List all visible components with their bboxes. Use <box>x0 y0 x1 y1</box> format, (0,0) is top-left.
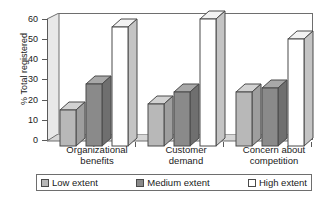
y-tick-30 <box>42 79 47 80</box>
legend-label-high-extent: High extent <box>259 178 307 188</box>
x-axis-label-line1: Concern about <box>225 145 323 156</box>
x-axis-label-concern-about-competition: Concern about competition <box>225 145 323 166</box>
y-tick-label-50: 50 <box>0 35 38 44</box>
x-axis-label-line2: competition <box>225 156 323 167</box>
x-axis-label-customer-demand: Customer demand <box>137 145 235 166</box>
x-axis-label-line1: Organizational <box>48 145 146 156</box>
plot-left-wall <box>47 13 59 140</box>
y-tick-40 <box>42 59 47 60</box>
y-axis-line <box>47 19 48 140</box>
bar-medium-extent-organizational-benefits <box>86 76 114 147</box>
x-axis-label-organizational-benefits: Organizational benefits <box>48 145 146 166</box>
legend-label-low-extent: Low extent <box>52 178 98 188</box>
y-tick-label-0: 0 <box>0 136 38 145</box>
x-axis-label-line2: benefits <box>48 156 146 167</box>
legend-item-medium-extent: Medium extent <box>136 178 209 188</box>
y-tick-label-20: 20 <box>0 96 38 105</box>
x-axis-label-line2: demand <box>137 156 235 167</box>
bar-chart: % Total registered 60 50 40 30 20 10 0 <box>0 0 330 203</box>
bar-low-extent-concern-about-competition <box>236 84 264 147</box>
legend-label-medium-extent: Medium extent <box>147 178 209 188</box>
bar-low-extent-customer-demand <box>148 96 176 147</box>
bar-high-extent-concern-about-competition <box>288 31 316 147</box>
legend-item-high-extent: High extent <box>248 178 307 188</box>
bar-high-extent-customer-demand <box>200 11 228 147</box>
bar-high-extent-organizational-benefits <box>112 19 140 147</box>
y-tick-50 <box>42 39 47 40</box>
legend-item-low-extent: Low extent <box>41 178 98 188</box>
legend-swatch-medium-extent-icon <box>136 179 144 187</box>
y-tick-10 <box>42 120 47 121</box>
x-axis-label-line1: Customer <box>137 145 235 156</box>
legend-swatch-low-extent-icon <box>41 179 49 187</box>
chart-legend: Low extent Medium extent High extent <box>36 174 312 191</box>
bar-medium-extent-customer-demand <box>174 84 202 147</box>
bar-medium-extent-concern-about-competition <box>262 80 290 147</box>
y-tick-label-60: 60 <box>0 15 38 24</box>
y-tick-60 <box>42 19 47 20</box>
legend-swatch-high-extent-icon <box>248 179 256 187</box>
y-tick-label-10: 10 <box>0 116 38 125</box>
y-tick-label-40: 40 <box>0 55 38 64</box>
y-tick-label-30: 30 <box>0 75 38 84</box>
y-tick-0 <box>42 140 47 141</box>
bar-low-extent-organizational-benefits <box>60 102 88 147</box>
y-tick-20 <box>42 100 47 101</box>
